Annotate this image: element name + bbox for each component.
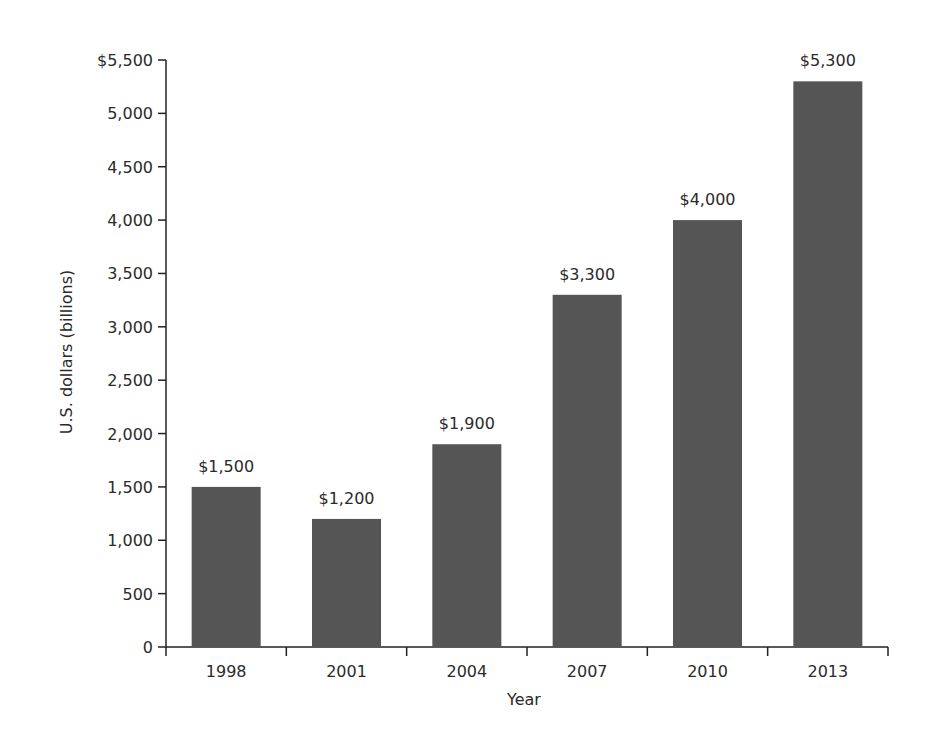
- y-tick-label: 4,500: [107, 158, 153, 177]
- bar-value-label: $5,300: [800, 51, 856, 70]
- y-tick-label: 0: [143, 638, 153, 657]
- bar-value-label: $1,500: [198, 457, 254, 476]
- bar-1998: [192, 487, 261, 647]
- bar-2001: [312, 519, 381, 647]
- x-tick-label: 2007: [567, 662, 608, 681]
- y-tick-label: $5,500: [97, 51, 153, 70]
- y-tick-label: 1,500: [107, 478, 153, 497]
- bar-2007: [553, 295, 622, 647]
- bar-chart: 05001,0001,5002,0002,5003,0003,5004,0004…: [0, 0, 932, 752]
- x-axis-title: Year: [506, 690, 541, 709]
- bar-2010: [673, 220, 742, 647]
- x-tick-label: 2004: [446, 662, 487, 681]
- bar-value-label: $1,200: [319, 489, 375, 508]
- y-tick-label: 2,500: [107, 371, 153, 390]
- y-tick-label: 4,000: [107, 211, 153, 230]
- y-tick-label: 2,000: [107, 425, 153, 444]
- x-tick-label: 2010: [687, 662, 728, 681]
- x-tick-label: 2013: [807, 662, 848, 681]
- y-axis-title: U.S. dollars (billions): [57, 270, 76, 434]
- bar-2013: [793, 81, 862, 647]
- y-tick-label: 5,000: [107, 104, 153, 123]
- y-axis: 05001,0001,5002,0002,5003,0003,5004,0004…: [97, 51, 166, 657]
- y-tick-label: 3,500: [107, 264, 153, 283]
- y-tick-label: 1,000: [107, 531, 153, 550]
- x-tick-label: 2001: [326, 662, 367, 681]
- bar-value-label: $1,900: [439, 414, 495, 433]
- bar-value-label: $3,300: [559, 265, 615, 284]
- y-tick-label: 500: [122, 585, 153, 604]
- bars: $1,500$1,200$1,900$3,300$4,000$5,300: [192, 51, 863, 647]
- y-tick-label: 3,000: [107, 318, 153, 337]
- bar-2004: [432, 444, 501, 647]
- bar-value-label: $4,000: [680, 190, 736, 209]
- x-tick-label: 1998: [206, 662, 247, 681]
- x-axis: 199820012004200720102013: [166, 647, 888, 681]
